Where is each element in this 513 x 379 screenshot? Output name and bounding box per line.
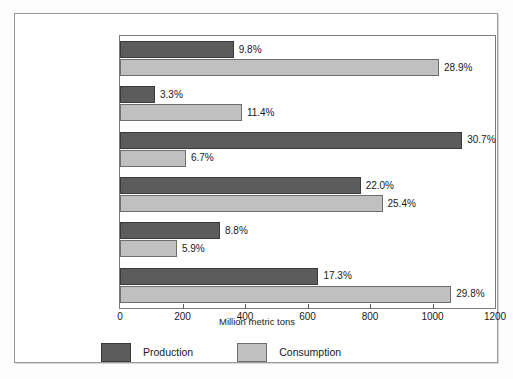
bar-value-label: 9.8%: [239, 45, 262, 55]
chart-category-row: 3.3%11.4%: [120, 81, 495, 126]
axis-tick-mark: [433, 304, 434, 309]
page-background: Asia PacificAfricaMiddle EastEuropeSouth…: [0, 0, 513, 379]
x-axis-title: Million metric tons: [15, 316, 499, 327]
figure-frame: Asia PacificAfricaMiddle EastEuropeSouth…: [14, 13, 498, 363]
legend-label: Production: [143, 346, 193, 358]
bar-value-label: 29.8%: [456, 289, 484, 299]
bar-value-label: 8.8%: [225, 226, 248, 236]
bar-production: [120, 86, 155, 103]
bar-consumption: [120, 59, 439, 76]
bar-value-label: 28.9%: [444, 63, 472, 73]
bar-value-label: 30.7%: [467, 135, 495, 145]
bar-value-label: 11.4%: [247, 108, 275, 118]
bar-production: [120, 177, 361, 194]
plot-area: 9.8%28.9%3.3%11.4%30.7%6.7%22.0%25.4%8.8…: [119, 35, 496, 309]
axis-tick-mark: [308, 304, 309, 309]
chart-legend: ProductionConsumption: [101, 341, 385, 363]
bar-production: [120, 268, 318, 285]
bar-production: [120, 132, 462, 149]
bar-value-label: 17.3%: [323, 271, 351, 281]
bar-value-label: 3.3%: [160, 90, 183, 100]
legend-swatch-consumption: [237, 343, 267, 362]
axis-tick-mark: [245, 304, 246, 309]
bar-value-label: 6.7%: [191, 153, 214, 163]
bar-value-label: 5.9%: [182, 244, 205, 254]
chart-category-row: 8.8%5.9%: [120, 217, 495, 262]
bar-consumption: [120, 150, 186, 167]
axis-tick-mark: [370, 304, 371, 309]
chart-category-row: 17.3%29.8%: [120, 263, 495, 308]
chart-category-row: 9.8%28.9%: [120, 36, 495, 81]
chart-category-row: 22.0%25.4%: [120, 172, 495, 217]
bar-production: [120, 222, 220, 239]
legend-item-production: Production: [101, 343, 193, 362]
bar-consumption: [120, 240, 177, 257]
bar-consumption: [120, 104, 242, 121]
chart-category-row: 30.7%6.7%: [120, 127, 495, 172]
bar-consumption: [120, 286, 451, 303]
legend-swatch-production: [101, 343, 131, 362]
axis-tick-mark: [183, 304, 184, 309]
legend-label: Consumption: [279, 346, 341, 358]
bar-value-label: 22.0%: [366, 181, 394, 191]
legend-item-consumption: Consumption: [237, 343, 341, 362]
bar-value-label: 25.4%: [388, 199, 416, 209]
bar-production: [120, 41, 234, 58]
bar-consumption: [120, 195, 383, 212]
